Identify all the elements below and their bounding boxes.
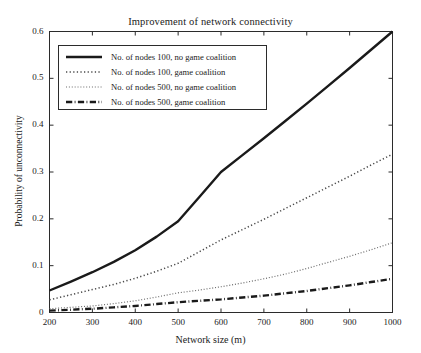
- x-tick-label: 400: [115, 317, 155, 327]
- y-tick-label: 0.4: [6, 119, 44, 129]
- y-tick-label: 0.5: [6, 72, 44, 82]
- legend-line-sample: [65, 80, 103, 94]
- chart-legend: No. of nodes 100, no game coalitionNo. o…: [58, 45, 267, 110]
- legend-item-label: No. of nodes 100, game coalition: [111, 67, 225, 77]
- x-tick-label: 500: [158, 317, 198, 327]
- series-line-2: [50, 154, 393, 300]
- legend-item-label: No. of nodes 500, no game coalition: [111, 82, 236, 92]
- x-tick-label: 200: [30, 317, 70, 327]
- x-tick-label: 1000: [373, 317, 413, 327]
- figure-canvas: Improvement of network connectivity 00.1…: [0, 0, 421, 353]
- legend-line-sample: [65, 50, 103, 64]
- series-line-4: [50, 279, 393, 311]
- y-axis-label: Probability of unconnectivity: [14, 81, 24, 261]
- y-tick-label: 0.3: [6, 166, 44, 176]
- y-tick-label: 0.1: [6, 260, 44, 270]
- legend-item-label: No. of nodes 100, no game coalition: [111, 52, 236, 62]
- legend-line-sample: [65, 95, 103, 109]
- x-tick-label: 300: [72, 317, 112, 327]
- x-tick-label: 700: [244, 317, 284, 327]
- x-axis-label: Network size (m): [0, 334, 421, 345]
- legend-item: No. of nodes 100, no game coalition: [59, 49, 266, 65]
- legend-item: No. of nodes 500, no game coalition: [59, 79, 266, 95]
- x-tick-label: 600: [201, 317, 241, 327]
- y-tick-label: 0.6: [6, 26, 44, 36]
- x-tick-label: 800: [287, 317, 327, 327]
- y-tick-label: 0: [6, 307, 44, 317]
- legend-line-sample: [65, 65, 103, 79]
- legend-item-label: No. of nodes 500, game coalition: [111, 97, 225, 107]
- legend-item: No. of nodes 100, game coalition: [59, 64, 266, 80]
- y-tick-label: 0.2: [6, 213, 44, 223]
- x-tick-label: 900: [330, 317, 370, 327]
- legend-item: No. of nodes 500, game coalition: [59, 94, 266, 110]
